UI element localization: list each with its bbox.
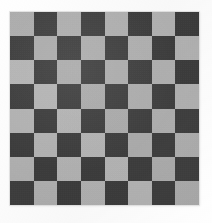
checker-square-dark — [57, 133, 81, 157]
checker-square-dark — [105, 181, 129, 205]
checkerboard-grid — [10, 12, 199, 205]
checker-square-dark — [175, 12, 199, 36]
checker-square-light — [81, 133, 105, 157]
checker-square-dark — [10, 84, 34, 108]
checkerboard-figure — [10, 12, 199, 205]
checker-square-light — [152, 12, 176, 36]
checker-square-dark — [152, 84, 176, 108]
checker-square-light — [152, 109, 176, 133]
checker-square-light — [57, 12, 81, 36]
checker-square-dark — [81, 60, 105, 84]
checker-square-light — [81, 36, 105, 60]
checker-square-light — [175, 84, 199, 108]
checker-square-dark — [34, 60, 58, 84]
checker-square-light — [152, 60, 176, 84]
checker-square-light — [10, 60, 34, 84]
checker-square-light — [105, 157, 129, 181]
checker-square-dark — [10, 36, 34, 60]
checker-square-dark — [105, 133, 129, 157]
checker-square-dark — [81, 157, 105, 181]
checker-square-light — [128, 36, 152, 60]
checker-square-light — [34, 133, 58, 157]
checker-square-light — [81, 84, 105, 108]
checker-square-dark — [34, 109, 58, 133]
checker-square-light — [10, 109, 34, 133]
checker-square-light — [105, 12, 129, 36]
checker-square-light — [34, 84, 58, 108]
checker-square-light — [175, 36, 199, 60]
checker-square-light — [175, 133, 199, 157]
checker-square-light — [105, 109, 129, 133]
checker-square-dark — [10, 181, 34, 205]
checker-square-dark — [34, 12, 58, 36]
image-canvas — [0, 0, 212, 223]
checker-square-light — [128, 133, 152, 157]
checker-square-light — [175, 181, 199, 205]
checker-square-dark — [10, 133, 34, 157]
checker-square-dark — [175, 109, 199, 133]
checker-square-dark — [152, 133, 176, 157]
checker-square-dark — [128, 60, 152, 84]
checker-square-light — [152, 157, 176, 181]
checker-square-dark — [57, 181, 81, 205]
checker-square-dark — [128, 12, 152, 36]
checker-square-dark — [57, 84, 81, 108]
checker-square-dark — [57, 36, 81, 60]
checker-square-dark — [175, 157, 199, 181]
checker-square-dark — [175, 60, 199, 84]
checker-square-dark — [105, 84, 129, 108]
checker-square-light — [34, 181, 58, 205]
checker-square-dark — [34, 157, 58, 181]
checker-square-light — [81, 181, 105, 205]
checker-square-light — [105, 60, 129, 84]
checker-square-light — [10, 157, 34, 181]
checker-square-light — [128, 181, 152, 205]
checker-square-light — [57, 109, 81, 133]
checker-square-light — [10, 12, 34, 36]
checker-square-dark — [105, 36, 129, 60]
checker-square-light — [57, 60, 81, 84]
checker-square-dark — [81, 12, 105, 36]
checker-square-dark — [152, 36, 176, 60]
checker-square-dark — [152, 181, 176, 205]
checker-square-light — [128, 84, 152, 108]
checker-square-dark — [128, 109, 152, 133]
checker-square-light — [34, 36, 58, 60]
checker-square-dark — [128, 157, 152, 181]
checker-square-light — [57, 157, 81, 181]
checker-square-dark — [81, 109, 105, 133]
